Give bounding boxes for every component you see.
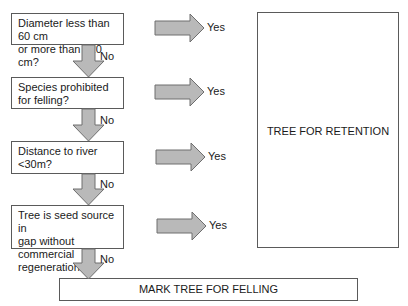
- no-label: No: [100, 114, 114, 127]
- yes-label: Yes: [207, 85, 225, 98]
- felling-box: MARK TREE FOR FELLING: [59, 278, 358, 301]
- question-box-species: Species prohibited for felling?: [11, 77, 124, 109]
- retention-box: TREE FOR RETENTION: [257, 12, 399, 248]
- question-text: Distance to river <30m?: [18, 145, 117, 171]
- right-arrow-icon: [157, 212, 207, 240]
- retention-label: TREE FOR RETENTION: [267, 125, 389, 138]
- yes-label: Yes: [208, 150, 226, 163]
- question-box-river-distance: Distance to river <30m?: [11, 141, 124, 174]
- no-label: No: [100, 178, 114, 191]
- right-arrow-icon: [155, 78, 205, 106]
- right-arrow-icon: [156, 143, 206, 171]
- no-label: No: [100, 253, 114, 266]
- question-box-seed-source: Tree is seed source in gap without comme…: [11, 205, 124, 249]
- question-box-diameter: Diameter less than 60 cm or more than 12…: [11, 13, 124, 45]
- right-arrow-icon: [155, 14, 205, 42]
- yes-label: Yes: [207, 21, 225, 34]
- no-label: No: [100, 50, 114, 63]
- felling-label: MARK TREE FOR FELLING: [139, 283, 278, 296]
- question-text: Species prohibited for felling?: [18, 81, 117, 107]
- yes-label: Yes: [209, 219, 227, 232]
